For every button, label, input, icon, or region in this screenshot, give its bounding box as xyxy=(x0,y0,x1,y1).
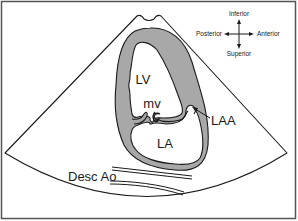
label-mv: mv xyxy=(143,96,161,111)
label-desc-ao: Desc Ao xyxy=(68,169,116,184)
orientation-posterior: Posterior xyxy=(196,30,223,37)
diagram-stage: LV mv LA LAA Desc Ao Inferior Superior P… xyxy=(0,0,298,221)
orientation-superior: Superior xyxy=(227,50,252,58)
label-lv: LV xyxy=(136,72,151,87)
label-laa: LAA xyxy=(211,113,236,128)
echo-diagram: LV mv LA LAA Desc Ao Inferior Superior P… xyxy=(0,0,298,221)
orientation-anterior: Anterior xyxy=(257,30,281,37)
label-la: LA xyxy=(157,136,173,151)
orientation-inferior: Inferior xyxy=(229,10,250,17)
